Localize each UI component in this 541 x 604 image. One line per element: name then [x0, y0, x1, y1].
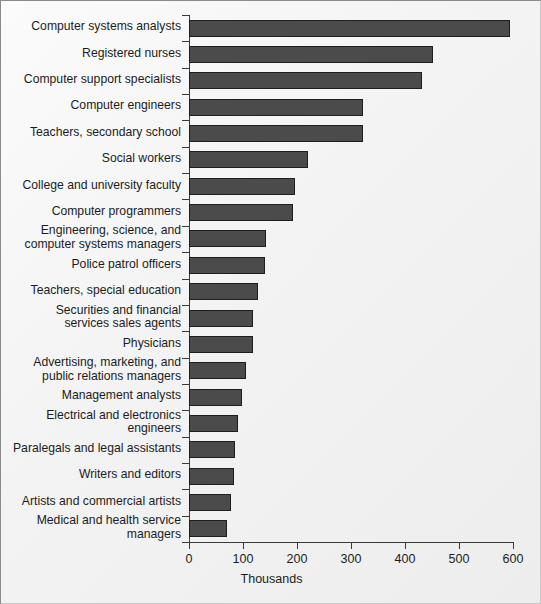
bar	[189, 125, 363, 142]
y-axis-tick	[182, 41, 189, 42]
y-axis-tick	[182, 226, 189, 227]
bar	[189, 441, 235, 458]
y-axis-tick	[182, 15, 189, 16]
category-label: Registered nurses	[5, 47, 181, 61]
bar	[189, 362, 246, 379]
x-axis-tick-label: 200	[287, 552, 308, 566]
y-axis-tick	[182, 279, 189, 280]
y-axis-tick	[182, 305, 189, 306]
category-label: Paralegals and legal assistants	[5, 442, 181, 456]
category-label: Teachers, secondary school	[5, 126, 181, 140]
y-axis-tick	[182, 199, 189, 200]
y-axis-tick	[182, 489, 189, 490]
bar	[189, 20, 510, 37]
category-label: Management analysts	[5, 389, 181, 403]
category-label: Computer engineers	[5, 99, 181, 113]
category-label: Social workers	[5, 152, 181, 166]
x-axis-tick	[405, 543, 406, 549]
y-axis-tick	[182, 331, 189, 332]
category-label: Securities and financial services sales …	[5, 304, 181, 331]
y-axis-tick	[182, 68, 189, 69]
category-label: Computer systems analysts	[5, 20, 181, 34]
y-axis-tick	[182, 252, 189, 253]
category-label: Electrical and electronics engineers	[5, 409, 181, 436]
bar	[189, 415, 238, 432]
bar	[189, 151, 308, 168]
bar	[189, 389, 242, 406]
category-label: Police patrol officers	[5, 258, 181, 272]
category-label: Computer programmers	[5, 205, 181, 219]
category-label: Computer support specialists	[5, 73, 181, 87]
x-axis-tick-label: 300	[341, 552, 362, 566]
plot-area	[189, 15, 513, 542]
x-axis-tick	[297, 543, 298, 549]
category-label: College and university faculty	[5, 179, 181, 193]
y-axis-tick	[182, 410, 189, 411]
x-axis-tick-label: 0	[186, 552, 193, 566]
category-label: Medical and health service managers	[5, 514, 181, 541]
bar	[189, 99, 363, 116]
x-axis-tick	[243, 543, 244, 549]
x-axis-tick-label: 500	[449, 552, 470, 566]
category-label: Physicians	[5, 337, 181, 351]
bar	[189, 494, 231, 511]
x-axis-tick-label: 600	[503, 552, 524, 566]
bar	[189, 257, 265, 274]
bar	[189, 178, 295, 195]
y-axis-tick	[182, 463, 189, 464]
y-axis-spine	[189, 15, 190, 543]
category-label: Engineering, science, and computer syste…	[5, 224, 181, 251]
bar	[189, 46, 433, 63]
x-axis-tick	[513, 543, 514, 549]
chart-frame: Computer systems analystsRegistered nurs…	[0, 0, 541, 604]
y-axis-tick	[182, 173, 189, 174]
x-axis-tick	[189, 543, 190, 549]
bar	[189, 204, 293, 221]
x-axis-tick-label: 100	[233, 552, 254, 566]
bar	[189, 310, 253, 327]
y-axis-tick	[182, 358, 189, 359]
category-label: Artists and commercial artists	[5, 495, 181, 509]
bar	[189, 468, 234, 485]
category-label: Writers and editors	[5, 468, 181, 482]
x-axis-title: Thousands	[1, 572, 541, 586]
y-axis-tick	[182, 437, 189, 438]
bar	[189, 230, 266, 247]
bar	[189, 520, 227, 537]
x-axis-tick-label: 400	[395, 552, 416, 566]
x-axis-tick	[351, 543, 352, 549]
y-axis-tick	[182, 94, 189, 95]
y-axis-tick	[182, 516, 189, 517]
category-label: Teachers, special education	[5, 284, 181, 298]
y-axis-tick	[182, 384, 189, 385]
category-label: Advertising, marketing, and public relat…	[5, 356, 181, 383]
x-axis-tick	[459, 543, 460, 549]
bar	[189, 72, 422, 89]
y-axis-tick	[182, 147, 189, 148]
bar	[189, 283, 258, 300]
bar	[189, 336, 253, 353]
y-axis-tick	[182, 120, 189, 121]
y-axis-tick	[182, 542, 189, 543]
